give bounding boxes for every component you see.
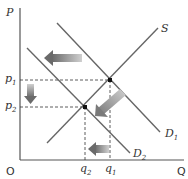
quantity-fall-arrow-icon	[88, 142, 109, 156]
equilibrium-point-2	[83, 105, 87, 109]
y-axis-label: P	[5, 6, 14, 19]
equilibrium-point-1	[108, 78, 112, 82]
origin-label: O	[6, 165, 15, 178]
movement-along-supply-arrow-icon	[95, 89, 126, 117]
quantity-label-q1: q1	[105, 162, 117, 177]
x-axis-label: Q	[177, 165, 186, 178]
supply-curve-label: S	[161, 22, 169, 35]
demand-curve-2-label: D2	[132, 147, 147, 162]
demand-curve-1-label: D1	[164, 127, 178, 142]
price-label-p1: p1	[5, 72, 17, 87]
demand-shift-arrow-icon	[44, 50, 82, 66]
supply-demand-diagram: P Q O S D1 D2 p1 p2 q2 q1	[0, 0, 188, 179]
price-fall-arrow-icon	[24, 84, 37, 104]
quantity-label-q2: q2	[80, 162, 92, 177]
price-label-p2: p2	[5, 99, 17, 114]
diagram-canvas: P Q O S D1 D2 p1 p2 q2 q1	[0, 0, 188, 179]
